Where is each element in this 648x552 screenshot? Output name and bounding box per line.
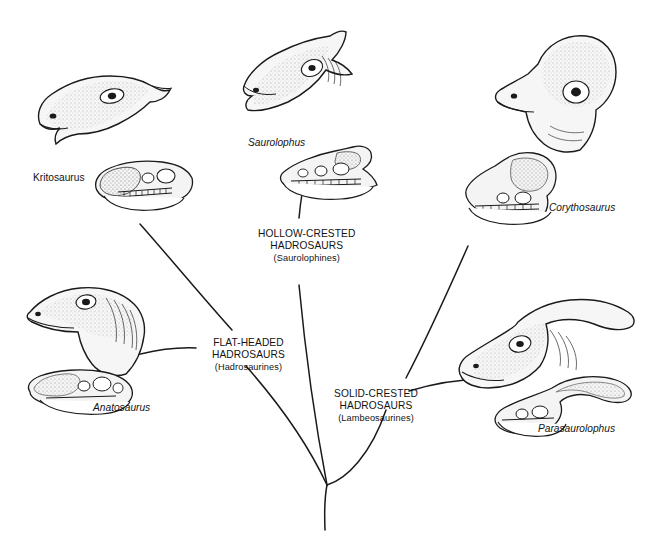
branch-trunk <box>325 485 327 530</box>
branch-trunk-upper <box>299 285 327 485</box>
taxon-label-parasaurolophus: Parasaurolophus <box>538 423 615 434</box>
group-label-hollow-crested-subtitle: (Saurolophines) <box>258 253 355 264</box>
saurolophus-head-illustration <box>234 26 360 136</box>
group-label-flat-headed: FLAT-HEADED HADROSAURS (Hadrosaurines) <box>212 337 285 373</box>
taxon-label-saurolophus: Saurolophus <box>248 137 305 148</box>
group-label-solid-crested-subtitle: (Lambeosaurines) <box>334 413 418 424</box>
group-label-solid-crested-line2: HADROSAURS <box>334 400 418 412</box>
taxon-label-corythosaurus: Corythosaurus <box>549 202 615 213</box>
group-label-hollow-crested: HOLLOW-CRESTED HADROSAURS (Saurolophines… <box>258 228 355 264</box>
branch-to-flat-headed-node <box>246 366 327 485</box>
group-label-hollow-crested-line1: HOLLOW-CRESTED <box>258 228 355 240</box>
kritosaurus-skull-illustration <box>88 152 198 218</box>
group-label-solid-crested-line1: SOLID-CRESTED <box>334 388 418 400</box>
saurolophus-skull-illustration <box>275 143 383 205</box>
group-label-flat-headed-line2: HADROSAURS <box>212 349 285 361</box>
hadrosaur-cladogram-figure: HOLLOW-CRESTED HADROSAURS (Saurolophines… <box>0 0 648 552</box>
corythosaurus-skull-illustration <box>455 148 567 230</box>
group-label-solid-crested: SOLID-CRESTED HADROSAURS (Lambeosaurines… <box>334 388 418 424</box>
corythosaurus-head-illustration <box>484 30 624 160</box>
group-label-flat-headed-line1: FLAT-HEADED <box>212 337 285 349</box>
kritosaurus-head-illustration <box>26 58 176 163</box>
group-label-flat-headed-subtitle: (Hadrosaurines) <box>212 362 285 373</box>
taxon-label-kritosaurus: Kritosaurus <box>33 172 85 183</box>
group-label-hollow-crested-line2: HADROSAURS <box>258 240 355 252</box>
taxon-label-anatosaurus: Anatosaurus <box>93 402 150 413</box>
